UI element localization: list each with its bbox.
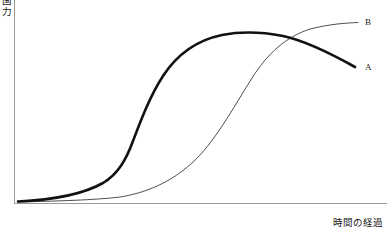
- series-b-label: B: [365, 17, 371, 27]
- chart-screenshot: 国力 時間の経過 B A: [0, 0, 387, 232]
- line-chart: [0, 0, 387, 232]
- y-axis-label: 国力: [0, 0, 13, 25]
- series-a-label: A: [365, 62, 372, 72]
- x-axis-label: 時間の経過: [333, 215, 383, 229]
